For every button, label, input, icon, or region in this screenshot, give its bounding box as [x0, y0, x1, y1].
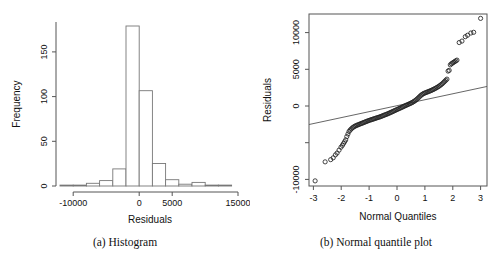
panel-normal-quantile-plot: -10000 0 5000 10000 Residuals: [251, 0, 501, 232]
qq-point: [472, 30, 476, 34]
x-tick-label-n1: -1: [365, 193, 373, 203]
bar-bin-5: [113, 169, 126, 186]
x-axis-tick-labels: -3 -2 -1 0 1 2 3: [309, 193, 483, 203]
bar-bin-7: [139, 91, 152, 186]
bar-bin-1: [60, 185, 73, 186]
x-axis-title: Residuals: [128, 214, 172, 225]
x-tick-label-1: 1: [422, 193, 427, 203]
y-tick-label-100: 100: [39, 89, 49, 104]
bar-bin-8: [152, 164, 165, 187]
y-tick-label-5000: 5000: [291, 59, 301, 79]
x-axis-title: Normal Quantiles: [359, 211, 436, 222]
y-axis-title: Frequency: [11, 80, 22, 127]
x-tick-label-5000: 5000: [162, 198, 182, 208]
qq-point: [346, 132, 350, 136]
panel-histogram: 0 50 100 150 Frequency: [0, 0, 250, 232]
bar-bin-4: [100, 181, 113, 186]
y-axis-ticks: [52, 52, 56, 186]
qq-chart: -10000 0 5000 10000 Residuals: [251, 0, 501, 232]
qq-data-points: [313, 16, 483, 183]
x-axis-ticks: [73, 192, 238, 196]
x-tick-label-0: 0: [394, 193, 399, 203]
y-tick-label-0: 0: [291, 103, 301, 108]
qq-point: [313, 179, 317, 183]
caption-histogram: (a) Histogram: [0, 236, 250, 248]
bar-bin-12: [205, 185, 218, 186]
x-tick-label-3: 3: [478, 193, 483, 203]
y-tick-label-10000: 10000: [291, 20, 301, 45]
x-axis-ticks: [313, 186, 480, 190]
y-axis-ticks: [305, 33, 309, 180]
x-tick-label-0: 0: [137, 198, 142, 208]
y-axis-tick-labels: 0 50 100 150: [39, 44, 49, 188]
qq-point: [323, 160, 327, 164]
caption-normal-quantile-plot: (b) Normal quantile plot: [251, 236, 501, 248]
y-tick-label-50: 50: [39, 136, 49, 146]
x-tick-label-2: 2: [450, 193, 455, 203]
bar-bin-3: [86, 183, 99, 186]
x-tick-label-n3: -3: [309, 193, 317, 203]
y-axis-tick-labels: -10000 0 5000 10000: [291, 20, 301, 193]
x-tick-label-n10000: -10000: [59, 198, 87, 208]
qq-point: [469, 31, 473, 35]
bar-bin-10: [179, 184, 192, 186]
x-tick-label-15000: 15000: [225, 198, 250, 208]
bar-bin-2: [73, 185, 86, 186]
bar-bin-13: [218, 185, 231, 186]
figure-residual-diagnostics: 0 50 100 150 Frequency: [0, 0, 501, 275]
bar-bin-11: [192, 182, 205, 186]
x-tick-label-n2: -2: [337, 193, 345, 203]
histogram-chart: 0 50 100 150 Frequency: [0, 0, 250, 232]
qq-point: [479, 16, 483, 20]
reference-line: [309, 86, 487, 124]
y-tick-label-150: 150: [39, 44, 49, 59]
y-tick-label-n10000: -10000: [291, 165, 301, 193]
bar-bin-9: [166, 180, 179, 186]
y-tick-label-0: 0: [39, 183, 49, 188]
histogram-bars: [60, 26, 232, 186]
y-axis-title: Residuals: [262, 78, 273, 122]
bar-bin-6: [126, 26, 139, 186]
x-axis-tick-labels: -10000 0 5000 15000: [59, 198, 250, 208]
